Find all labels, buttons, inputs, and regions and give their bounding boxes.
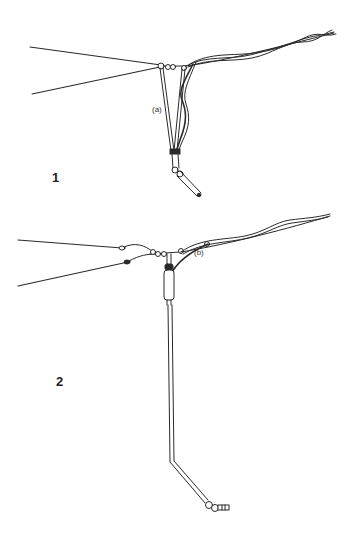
right-wire <box>186 33 334 66</box>
figure-number-2: 2 <box>56 374 63 389</box>
swivel-node <box>212 505 219 512</box>
figure-number-1: 1 <box>52 170 59 185</box>
connector <box>218 505 229 510</box>
figure-1-drawing <box>30 30 336 197</box>
insulator-node <box>166 65 171 70</box>
left-wire-lower <box>18 262 128 286</box>
callout-a: (a) <box>152 105 162 114</box>
insulator-node <box>162 252 167 257</box>
twisted-feeder-strand <box>186 32 334 66</box>
left-wire-lower <box>32 67 160 94</box>
left-wire-upper <box>18 240 122 248</box>
support-rod <box>163 68 174 151</box>
insulator-node <box>156 252 161 257</box>
jumper-wire <box>124 245 153 252</box>
clamp <box>170 149 180 154</box>
antenna-diagram <box>0 0 352 545</box>
lower-element <box>178 154 179 168</box>
hinge-node <box>177 171 183 177</box>
figure-2-drawing <box>18 214 330 512</box>
jumper-wire <box>129 254 156 261</box>
lower-element <box>172 154 173 168</box>
tube-insulator <box>164 270 174 300</box>
callout-b: (b) <box>194 248 204 257</box>
clamp <box>165 264 173 270</box>
insulator-node <box>171 65 176 70</box>
insulator-node <box>151 250 156 255</box>
left-wire-upper <box>30 47 161 65</box>
end-cap <box>197 193 201 197</box>
